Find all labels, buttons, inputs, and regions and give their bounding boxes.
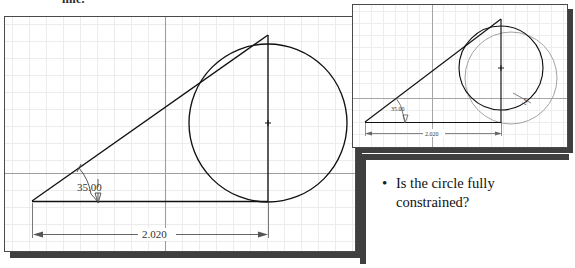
inset-length-dimension-group[interactable]: 2.020 bbox=[365, 129, 502, 137]
main-sketch-geometry[interactable] bbox=[32, 35, 347, 202]
angle-dimension-label: 35.00 bbox=[77, 181, 102, 193]
main-sketch-svg[interactable]: 35.00 2.020 bbox=[5, 17, 355, 251]
inset-panel-shadow-bottom bbox=[357, 148, 573, 153]
main-panel-shadow-bottom bbox=[10, 252, 362, 258]
question-panel-shadow-top bbox=[360, 154, 569, 160]
bullet-list-item: • Is the circle fully constrained? bbox=[382, 174, 561, 212]
question-text: Is the circle fully constrained? bbox=[396, 174, 546, 212]
main-sketch-sheet[interactable]: 35.00 2.020 bbox=[4, 16, 356, 252]
bullet-point-icon: • bbox=[382, 174, 396, 193]
length-dimension-label: 2.020 bbox=[142, 228, 167, 240]
length-dimension-group[interactable]: 2.020 bbox=[33, 228, 268, 241]
question-panel-shadow-left bbox=[360, 154, 366, 264]
inset-drawing-panel[interactable]: 35.00 1.0 2.020 bbox=[352, 4, 568, 148]
inset-sketch-sheet[interactable]: 35.00 1.0 2.020 bbox=[352, 4, 568, 148]
top-caption-text: line. bbox=[62, 0, 182, 6]
sketch-angled-line[interactable] bbox=[32, 35, 268, 201]
inset-angle-dimension-label: 35.00 bbox=[391, 106, 405, 112]
inset-length-dimension-label: 2.020 bbox=[425, 131, 439, 137]
slide-root: line. bbox=[0, 0, 575, 268]
question-panel: • Is the circle fully constrained? bbox=[366, 160, 569, 264]
inset-sketch-svg[interactable]: 35.00 1.0 2.020 bbox=[353, 5, 567, 147]
inset-panel-shadow-right bbox=[568, 9, 573, 153]
circle-center-mark bbox=[265, 120, 271, 126]
main-drawing-panel[interactable]: 35.00 2.020 bbox=[4, 16, 356, 252]
